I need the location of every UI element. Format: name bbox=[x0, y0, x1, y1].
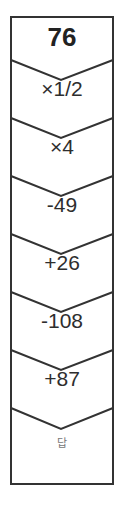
arithmetic-chain-puzzle: 76 ×1/2 ×4 -49 +26 -108 +87 답 bbox=[10, 16, 114, 485]
step-3-operation: -49 bbox=[12, 191, 112, 219]
step-2-operation: ×4 bbox=[12, 133, 112, 161]
answer-label: 답 bbox=[12, 435, 112, 451]
step-1-operation: ×1/2 bbox=[12, 75, 112, 103]
start-value: 76 bbox=[12, 20, 112, 54]
step-4-operation: +26 bbox=[12, 249, 112, 277]
step-6-operation: +87 bbox=[12, 365, 112, 393]
step-5-operation: -108 bbox=[12, 307, 112, 335]
